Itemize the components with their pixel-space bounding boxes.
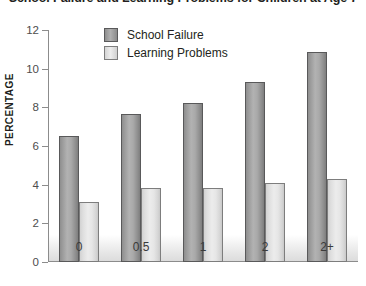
legend-label: School Failure	[127, 28, 204, 42]
y-tick-mark	[42, 30, 48, 31]
y-axis-title: PERCENTAGE	[4, 73, 15, 146]
chart-legend: School Failure Learning Problems	[104, 26, 228, 62]
legend-item-learning-problems: Learning Problems	[104, 44, 228, 61]
x-axis-label: 2+	[320, 240, 334, 254]
legend-item-school-failure: School Failure	[104, 26, 228, 43]
bar	[183, 103, 203, 262]
y-tick-mark	[42, 107, 48, 108]
y-tick-mark	[42, 262, 48, 263]
y-tick-label: 6	[33, 140, 39, 152]
y-tick-label: 4	[33, 179, 39, 191]
x-axis-label: 1	[200, 240, 207, 254]
y-tick-label: 0	[33, 256, 39, 268]
y-tick-mark	[42, 223, 48, 224]
y-tick-mark	[42, 69, 48, 70]
x-axis-label: 2	[262, 240, 269, 254]
y-tick-mark	[42, 185, 48, 186]
y-tick-label: 10	[26, 63, 39, 75]
legend-swatch-icon	[104, 28, 118, 42]
y-tick-label: 12	[26, 24, 39, 36]
x-axis-label: 0	[76, 240, 83, 254]
plot-area: 024681012	[48, 30, 358, 262]
legend-swatch-icon	[104, 46, 118, 60]
bar-chart: School Failure and Learning Problems for…	[0, 0, 366, 286]
chart-title: School Failure and Learning Problems for…	[0, 0, 366, 5]
bar	[245, 82, 265, 262]
y-tick-mark	[42, 146, 48, 147]
x-axis-label: 0.5	[133, 240, 150, 254]
bar	[307, 52, 327, 262]
y-tick-label: 2	[33, 217, 39, 229]
y-tick-label: 8	[33, 101, 39, 113]
legend-label: Learning Problems	[127, 46, 228, 60]
y-axis-line	[48, 30, 49, 262]
